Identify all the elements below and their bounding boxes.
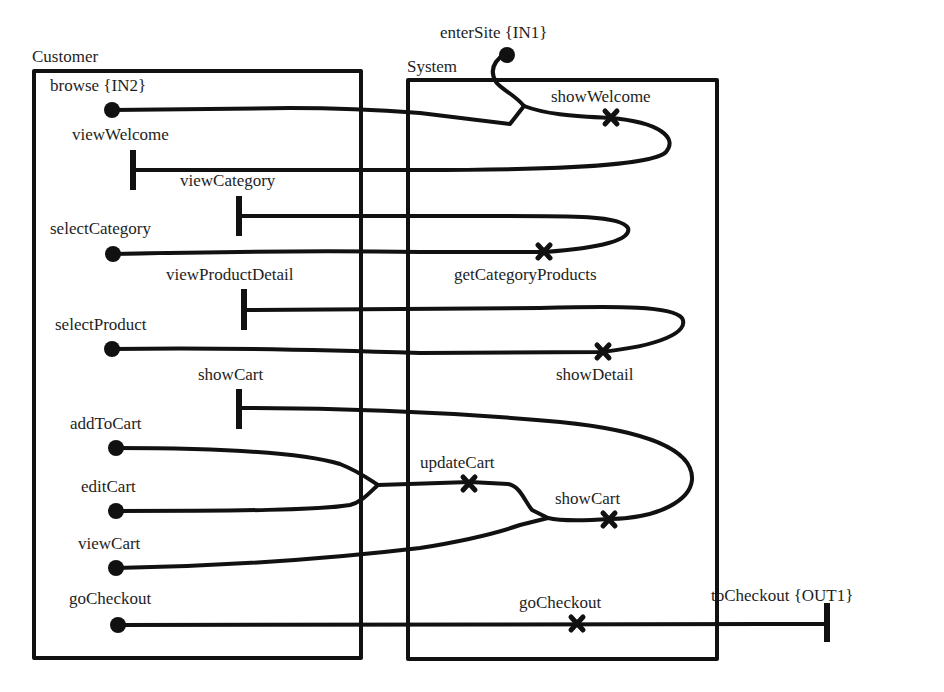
path-browse <box>112 106 524 124</box>
component-label-customer: Customer <box>32 48 98 66</box>
start-point-add-to-cart[interactable] <box>108 440 124 456</box>
responsibility-label-show-cart: showCart <box>555 490 620 508</box>
end-label-view-category: viewCategory <box>180 172 275 190</box>
end-label-view-product-detail: viewProductDetail <box>166 266 293 284</box>
end-label-show-cart: showCart <box>198 366 263 384</box>
responsibility-label-show-welcome: showWelcome <box>551 88 651 106</box>
start-point-entersite[interactable] <box>499 47 515 63</box>
start-label-go-checkout: goCheckout <box>69 590 151 608</box>
start-point-edit-cart[interactable] <box>108 503 124 519</box>
start-point-select-product[interactable] <box>104 341 120 357</box>
responsibility-label-get-category-products: getCategoryProducts <box>454 266 597 284</box>
start-point-select-category[interactable] <box>105 246 121 262</box>
responsibility-label-show-detail: showDetail <box>556 366 633 384</box>
start-point-go-checkout[interactable] <box>110 617 126 633</box>
start-label-view-cart: viewCart <box>78 535 140 553</box>
responsibility-label-go-checkout: goCheckout <box>519 594 601 612</box>
component-label-system: System <box>407 58 457 76</box>
end-label-to-checkout: toCheckout {OUT1} <box>711 587 853 605</box>
start-label-select-product: selectProduct <box>55 316 147 334</box>
end-label-view-welcome: viewWelcome <box>72 126 169 144</box>
path-welcome-loop <box>132 106 670 170</box>
path-add-to-cart <box>116 448 378 485</box>
path-go-checkout <box>118 624 826 625</box>
start-label-select-category: selectCategory <box>50 220 151 238</box>
responsibility-label-update-cart: updateCart <box>420 454 495 472</box>
path-view-cart <box>116 518 548 568</box>
path-select-category <box>112 216 628 254</box>
start-point-browse[interactable] <box>104 102 120 118</box>
start-label-edit-cart: editCart <box>81 478 136 496</box>
start-label-add-to-cart: addToCart <box>70 415 142 433</box>
path-edit-cart <box>116 485 378 511</box>
start-label-entersite: enterSite {IN1} <box>440 24 547 42</box>
start-point-view-cart[interactable] <box>108 560 124 576</box>
start-label-browse: browse {IN2} <box>50 77 146 95</box>
